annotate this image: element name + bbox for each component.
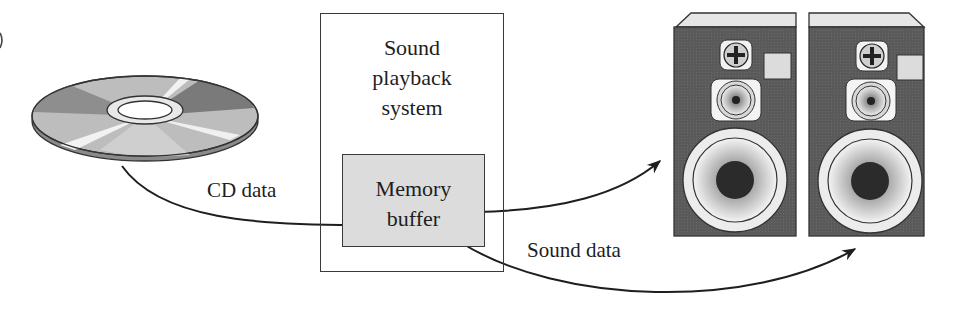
sound-playback-system-title: Sound playback system — [320, 33, 504, 123]
left-speaker-icon — [674, 13, 796, 236]
memory-buffer-label: Memory buffer — [342, 174, 485, 234]
buffer-to-left-speaker-arrow — [477, 161, 660, 212]
cd-data-label: CD data — [207, 178, 276, 202]
right-speaker-icon — [809, 13, 924, 236]
system-title-line-2: playback — [320, 63, 504, 93]
buffer-label-line-1: Memory — [342, 174, 485, 204]
system-title-line-3: system — [320, 93, 504, 123]
compact-disc-icon — [32, 76, 258, 161]
sound-data-arrow — [460, 242, 855, 292]
system-title-line-1: Sound — [320, 33, 504, 63]
buffer-label-line-2: buffer — [342, 204, 485, 234]
sound-data-label: Sound data — [527, 238, 621, 262]
cropped-label-fragment — [0, 33, 2, 48]
